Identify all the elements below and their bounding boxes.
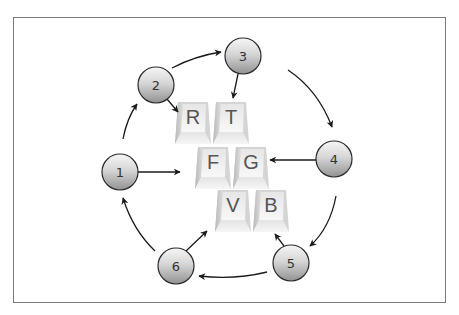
keycap-b: B (253, 190, 289, 232)
node-6: 6 (158, 248, 194, 284)
node-5: 5 (273, 245, 309, 281)
keycap-g: G (233, 147, 269, 189)
key-label-f: F (207, 151, 219, 173)
keycap-t: T (213, 102, 249, 144)
node-label-3: 3 (239, 49, 247, 64)
key-label-v: V (226, 194, 240, 216)
node-label-5: 5 (287, 256, 295, 271)
node-label-2: 2 (152, 78, 160, 93)
keycap-r: R (175, 102, 211, 144)
node-label-4: 4 (330, 152, 338, 167)
node-3: 3 (225, 38, 261, 74)
key-label-t: T (225, 106, 237, 128)
keycap-v: V (215, 190, 251, 232)
node-1: 1 (102, 154, 138, 190)
node-label-1: 1 (116, 165, 124, 180)
node-4: 4 (316, 141, 352, 177)
key-label-b: B (264, 194, 277, 216)
node-label-6: 6 (172, 259, 180, 274)
keycap-f: F (195, 147, 231, 189)
node-2: 2 (138, 67, 174, 103)
key-label-g: G (243, 151, 259, 173)
diagram-canvas: R T F G V (0, 0, 459, 315)
key-label-r: R (186, 106, 200, 128)
